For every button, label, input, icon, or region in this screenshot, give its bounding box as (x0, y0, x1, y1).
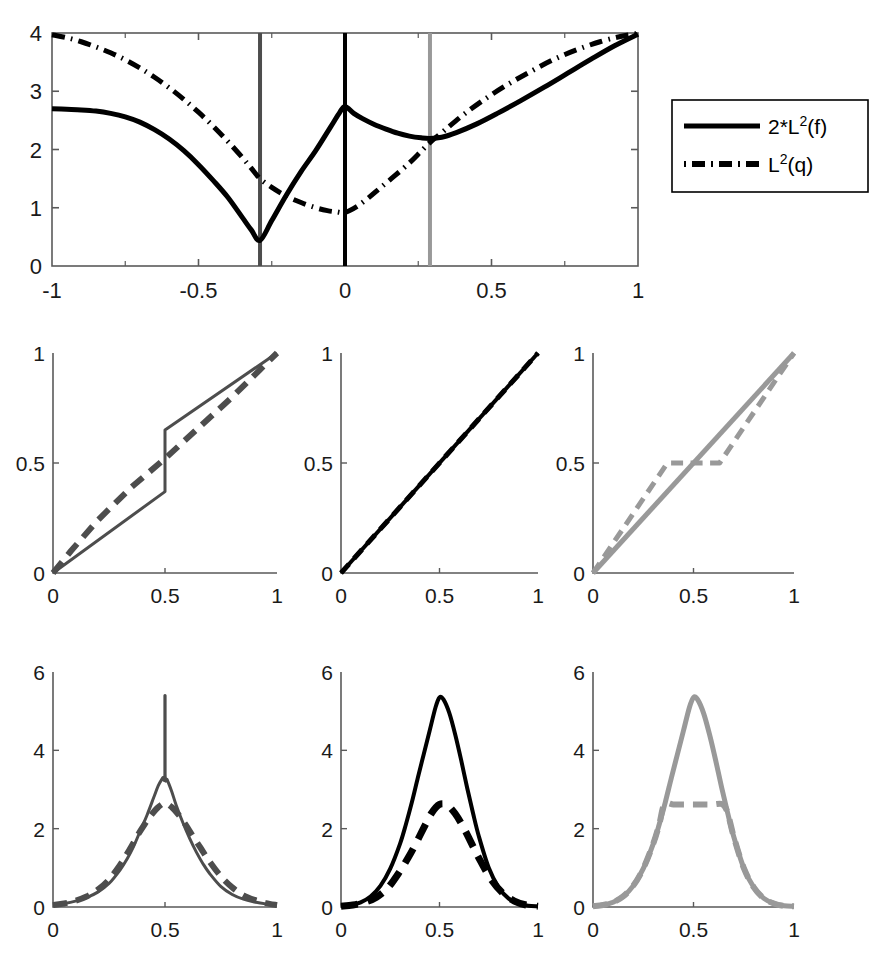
bottom-right-density-panel: 00.510246 (540, 650, 840, 950)
y-tick-label: 0 (573, 896, 585, 919)
x-tick-label: 0 (587, 584, 599, 607)
y-tick-label: 4 (321, 739, 333, 762)
x-tick-label: 0.5 (679, 918, 708, 941)
x-tick-label: 0.5 (150, 584, 179, 607)
y-tick-label: 6 (321, 661, 333, 684)
x-tick-label: 0 (47, 918, 59, 941)
y-tick-label: 2 (573, 818, 585, 841)
x-tick-label: 0.5 (679, 584, 708, 607)
mid-left-cdf-panel: 00.5100.51 (0, 340, 300, 610)
y-tick-label: 0.5 (556, 452, 585, 475)
y-tick-label: 0 (321, 562, 333, 585)
series-density-f (53, 696, 277, 906)
axis-lines (341, 672, 538, 907)
y-tick-label: 0.5 (304, 452, 333, 475)
y-tick-label: 6 (33, 661, 45, 684)
x-tick-label: 1 (271, 584, 283, 607)
bottom-left-density-panel: 00.510246 (0, 650, 300, 950)
x-tick-label: 0.5 (150, 918, 179, 941)
y-tick-label: 3 (30, 79, 42, 104)
top-divergence-panel: -1-0.500.5101234 (0, 18, 660, 328)
x-tick-label: 0 (47, 584, 59, 607)
y-tick-label: 0 (33, 562, 45, 585)
x-tick-label: 0 (339, 278, 351, 303)
x-tick-label: 1 (788, 918, 800, 941)
legend-box (672, 100, 868, 192)
y-tick-label: 2 (321, 818, 333, 841)
y-tick-label: 0.5 (16, 452, 45, 475)
x-tick-label: -1 (42, 278, 62, 303)
y-tick-label: 6 (573, 661, 585, 684)
y-tick-label: 1 (33, 342, 45, 365)
series-density-q (53, 803, 277, 905)
y-tick-label: 4 (573, 739, 585, 762)
y-tick-label: 2 (33, 818, 45, 841)
y-tick-label: 0 (573, 562, 585, 585)
x-tick-label: 0.5 (425, 584, 454, 607)
x-tick-label: 1 (271, 918, 283, 941)
x-tick-label: 0 (587, 918, 599, 941)
mid-right-cdf-panel: 00.5100.51 (540, 340, 840, 610)
y-tick-label: 1 (30, 196, 42, 221)
x-tick-label: 0 (335, 584, 347, 607)
x-tick-label: -0.5 (180, 278, 218, 303)
y-tick-label: 4 (30, 21, 42, 46)
figure-root: -1-0.500.5101234 2*L2(f)L2(q) 00.5100.51… (0, 0, 888, 956)
x-tick-label: 1 (632, 278, 644, 303)
y-tick-label: 0 (33, 896, 45, 919)
legend-label-0: 2*L2(f) (768, 113, 827, 138)
y-tick-label: 4 (33, 739, 45, 762)
legend: 2*L2(f)L2(q) (670, 98, 888, 208)
x-tick-label: 0.5 (425, 918, 454, 941)
axis-lines (593, 672, 794, 907)
y-tick-label: 1 (573, 342, 585, 365)
x-tick-label: 1 (788, 584, 800, 607)
y-tick-label: 1 (321, 342, 333, 365)
series-density-q-clipped (593, 803, 794, 906)
y-tick-label: 0 (30, 254, 42, 279)
x-tick-label: 0.5 (476, 278, 507, 303)
x-tick-label: 0 (335, 918, 347, 941)
legend-label-1: L2(q) (768, 151, 813, 176)
y-tick-label: 2 (30, 138, 42, 163)
series-density-q (341, 804, 538, 907)
y-tick-label: 0 (321, 896, 333, 919)
